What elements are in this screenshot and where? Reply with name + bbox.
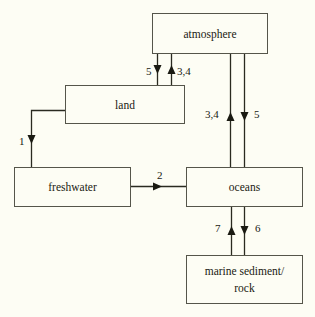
- node-atmosphere-label: atmosphere: [183, 28, 236, 41]
- node-land-label: land: [115, 99, 135, 111]
- arrow-atmosphere-to-land: [154, 54, 162, 85]
- arrowhead-down-icon: [241, 226, 249, 235]
- node-marine-sediment-label-line2: rock: [234, 282, 255, 294]
- node-oceans[interactable]: oceans: [187, 168, 303, 207]
- arrowhead-down-icon: [154, 65, 162, 74]
- node-marine-sediment[interactable]: marine sediment/ rock: [187, 256, 303, 304]
- arrow-land-to-freshwater: [28, 111, 66, 168]
- node-atmosphere[interactable]: atmosphere: [153, 14, 268, 54]
- arrow-land-to-atmosphere: [168, 54, 176, 85]
- arrowhead-down-icon: [28, 135, 36, 144]
- flux-label-oceans-to-marine-sediment: 6: [255, 222, 261, 234]
- flux-label-atmosphere-to-oceans: 5: [254, 108, 260, 120]
- arrow-oceans-to-atmosphere: [227, 54, 235, 167]
- arrow-atmosphere-to-oceans: [241, 54, 249, 167]
- reservoir-flux-diagram: atmosphere land freshwater oceans marine…: [0, 0, 315, 317]
- flux-label-atmosphere-to-land: 5: [146, 65, 152, 77]
- arrow-oceans-to-marine-sediment: [241, 207, 249, 255]
- node-land[interactable]: land: [66, 86, 185, 124]
- arrowhead-down-icon: [241, 112, 249, 121]
- flux-label-land-to-freshwater: 1: [19, 135, 25, 147]
- arrowhead-up-icon: [228, 226, 236, 235]
- flux-label-land-to-atmosphere: 3,4: [177, 65, 191, 77]
- node-oceans-label: oceans: [229, 181, 261, 193]
- arrow-freshwater-to-oceans: [131, 183, 186, 191]
- node-marine-sediment-label-line1: marine sediment/: [205, 265, 285, 277]
- flux-label-marine-sediment-to-oceans: 7: [215, 222, 221, 234]
- arrow-marine-sediment-to-oceans: [228, 207, 236, 255]
- diagram-canvas: atmosphere land freshwater oceans marine…: [0, 0, 315, 317]
- flux-label-oceans-to-atmosphere: 3,4: [205, 108, 219, 120]
- flux-label-freshwater-to-oceans: 2: [157, 169, 163, 181]
- arrowhead-up-icon: [227, 112, 235, 121]
- node-freshwater-label: freshwater: [48, 181, 97, 193]
- arrowhead-up-icon: [168, 65, 176, 74]
- node-freshwater[interactable]: freshwater: [15, 168, 131, 207]
- arrowhead-right-icon: [153, 183, 162, 191]
